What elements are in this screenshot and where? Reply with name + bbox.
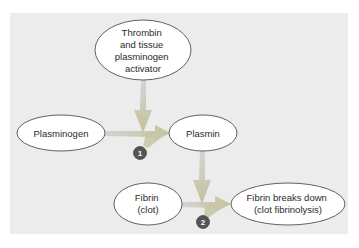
node-label-line: activator — [125, 63, 161, 74]
node-label-line: (clot) — [137, 204, 158, 215]
svg-text:Fibrin breaks down (clot: Fibrin breaks down (clot fibrinolysis) — [247, 192, 330, 215]
node-label-line: Thrombin — [122, 27, 162, 38]
svg-text:Plasminogen: Plasminogen — [34, 128, 89, 139]
fibrinolysis-diagram: Thrombin and tissue plasminogen activato… — [0, 0, 359, 248]
node-label-line: Plasmin — [186, 128, 220, 139]
node-thrombin-tpa: Thrombin and tissue plasminogen activato… — [95, 20, 191, 80]
node-label-line: Plasminogen — [34, 128, 89, 139]
step-badge-1: 1 — [134, 147, 147, 160]
node-plasmin: Plasmin — [169, 115, 237, 151]
step-badge-2: 2 — [197, 216, 210, 229]
step-number: 2 — [201, 218, 206, 227]
svg-text:Plasmin: Plasmin — [186, 128, 220, 139]
node-label-line: (clot fibrinolysis) — [254, 204, 322, 215]
node-fibrin-clot: Fibrin (clot) — [114, 183, 182, 225]
node-fibrin-breakdown: Fibrin breaks down (clot fibrinolysis) — [231, 183, 345, 225]
node-label-line: Fibrin breaks down — [247, 192, 327, 203]
node-label-line: and tissue — [120, 39, 163, 50]
step-number: 1 — [138, 149, 143, 158]
node-label-line: plasminogen — [115, 51, 169, 62]
svg-text:Fibrin (clot): Fibrin (clot) — [135, 192, 161, 215]
node-label-line: Fibrin — [135, 192, 159, 203]
node-plasminogen: Plasminogen — [17, 115, 105, 151]
